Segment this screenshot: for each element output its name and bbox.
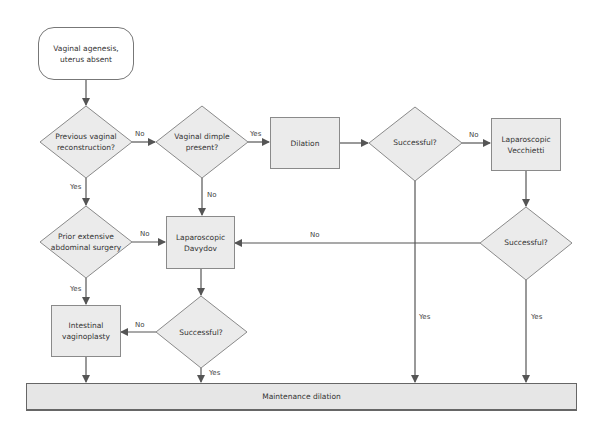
dilation-text: Dilation [291,138,320,149]
vecchietti-successful-label: Successful? [486,234,566,250]
edge-label-davydov-success-yes: Yes [209,369,220,378]
previous-reconstruction-line1: Previous vaginal [55,131,116,142]
previous-reconstruction-line2: reconstruction? [57,142,115,153]
edge-label-prev-no: No [135,130,145,139]
edge-label-prev-yes: Yes [70,183,81,192]
intestinal-line1: Intestinal [69,320,104,331]
edge-label-vecchietti-success-no: No [310,231,320,240]
dilation-node: Dilation [270,117,340,169]
davydov-successful-label: Successful? [161,324,241,340]
vecchietti-line2: Vecchietti [508,145,545,156]
vecchietti-successful-text: Successful? [504,237,548,248]
davydov-line1: Laparoscopic [176,232,225,243]
maintenance-dilation-text: Maintenance dilation [262,391,341,402]
vaginal-dimple-line2: present? [186,142,219,153]
edge-label-vecchietti-success-yes: Yes [531,313,542,322]
start-node: Vaginal agenesis, uterus absent [38,27,134,80]
edge-label-davydov-success-no: No [135,321,145,330]
previous-reconstruction-label: Previous vaginal reconstruction? [46,128,126,156]
dilation-successful-label: Successful? [375,134,455,150]
edge-label-dilation-success-no: No [469,131,479,140]
davydov-successful-text: Successful? [179,327,223,338]
prior-surgery-line2: abdominal surgery [51,242,121,253]
davydov-line2: Davydov [184,243,217,254]
maintenance-dilation-node: Maintenance dilation [26,383,577,411]
intestinal-vaginoplasty-node: Intestinal vaginoplasty [51,305,121,357]
edge-label-prior-no: No [140,230,150,239]
prior-surgery-label: Prior extensive abdominal surgery [40,228,132,256]
vecchietti-node: Laparoscopic Vecchietti [491,118,561,171]
start-line1: Vaginal agenesis, [53,43,118,54]
start-line2: uterus absent [60,54,112,65]
davydov-node: Laparoscopic Davydov [166,216,235,269]
vaginal-dimple-label: Vaginal dimple present? [162,128,242,156]
edge-label-dimple-yes: Yes [250,130,261,139]
intestinal-line2: vaginoplasty [62,331,110,342]
prior-surgery-line1: Prior extensive [58,231,114,242]
vaginal-dimple-line1: Vaginal dimple [174,131,229,142]
edge-label-dilation-success-yes: Yes [419,313,430,322]
edge-label-prior-yes: Yes [70,285,81,294]
dilation-successful-text: Successful? [393,137,437,148]
edge-label-dimple-no: No [207,191,217,200]
vecchietti-line1: Laparoscopic [501,134,550,145]
